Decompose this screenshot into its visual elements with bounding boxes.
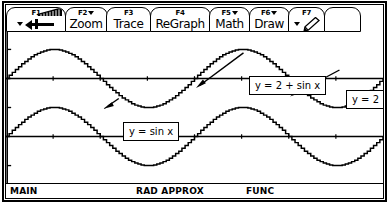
calculator-frame: F1 [2, 1, 387, 202]
toolbar-tab-f5-fkey: F5 [221, 8, 237, 17]
chevron-down-icon [271, 11, 277, 15]
toolbar-tab-f3-trace[interactable]: F3 Trace [106, 7, 151, 32]
chevron-down-icon [232, 11, 238, 15]
toolbar-tab-f4-label: ReGraph [155, 17, 204, 31]
graph-curves [6, 50, 383, 166]
toolbar-tab-f7-pen[interactable]: F7 [288, 7, 325, 32]
graph-axes [7, 32, 11, 183]
toolbar-tab-f1-fkey: F1 [31, 8, 40, 17]
toolbar-tab-f3-fkey: F3 [124, 8, 133, 17]
calculator-screen: F1 [5, 4, 384, 199]
status-graph-mode: FUNC [246, 186, 274, 196]
toolbar-tab-f3-label: Trace [114, 17, 144, 31]
toolbar-tab-f5-math[interactable]: F5 Math [209, 7, 250, 32]
left-arrow-icon [25, 19, 55, 29]
status-angle-mode: RAD APPROX [136, 186, 204, 196]
toolbar-tab-f7-iconrow [291, 17, 322, 31]
chevron-down-icon [17, 22, 23, 26]
toolbar-tab-f1-tools[interactable]: F1 [6, 7, 66, 32]
toolbar-tab-f2-zoom[interactable]: F2 Zoom [65, 7, 108, 32]
graph-plot-area[interactable]: y = 2 + sin x y = 2 y = sin x [6, 32, 383, 183]
pencil-icon [302, 17, 320, 31]
annotation-lower-sine: y = sin x [123, 122, 179, 141]
toolbar-tab-f2-fkey-label: F2 [78, 9, 87, 17]
graph-svg [6, 32, 383, 183]
toolbar-tab-f6-fkey-label: F6 [261, 9, 270, 17]
toolbar-tab-f6-fkey: F6 [261, 8, 277, 17]
leader-line-lower-sine [103, 98, 119, 108]
toolbar-tab-f1-iconrow [9, 17, 63, 31]
toolbar-tab-f5-label: Math [215, 17, 243, 31]
toolbar-tab-f7-fkey-label: F7 [302, 9, 311, 17]
annotation-y2: y = 2 [346, 90, 383, 109]
ruler-icon [37, 8, 63, 17]
toolbar-tab-f3-fkey-label: F3 [124, 9, 133, 17]
toolbar-tab-f2-fkey: F2 [78, 8, 94, 17]
toolbar-tab-f2-label: Zoom [70, 17, 103, 31]
toolbar-tab-f6-draw[interactable]: F6 Draw [249, 7, 290, 32]
calculator-screenshot: F1 [0, 0, 391, 210]
status-bar: MAIN RAD APPROX FUNC [6, 183, 383, 198]
toolbar-tab-f5-fkey-label: F5 [221, 9, 230, 17]
chevron-down-icon [294, 22, 300, 26]
toolbar-tab-f6-label: Draw [254, 17, 284, 31]
annotation-upper-sine: y = 2 + sin x [249, 76, 326, 95]
toolbar-tab-f4-fkey-label: F4 [175, 9, 184, 17]
chevron-down-icon [88, 11, 94, 15]
toolbar-tab-f4-regraph[interactable]: F4 ReGraph [150, 7, 211, 32]
status-folder: MAIN [10, 186, 38, 196]
toolbar-tab-f7-fkey: F7 [302, 8, 311, 17]
toolbar-tab-f4-fkey: F4 [175, 8, 184, 17]
toolbar: F1 [6, 5, 383, 32]
toolbar-tab-blank[interactable] [324, 7, 361, 32]
